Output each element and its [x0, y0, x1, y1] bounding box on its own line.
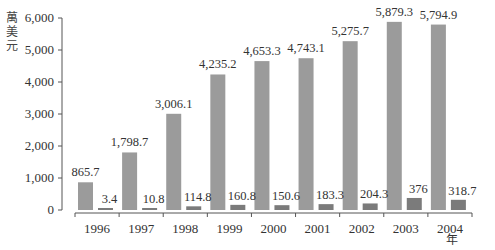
x-category-label: 2000 — [254, 221, 294, 237]
bar-chart: 萬美元 01,0002,0003,0004,0005,0006,000 1996… — [0, 0, 495, 250]
bar-value-label: 5,275.7 — [320, 24, 380, 39]
x-category-label: 1999 — [209, 221, 249, 237]
x-category-label: 2001 — [298, 221, 338, 237]
x-category-label: 2002 — [342, 221, 382, 237]
y-tick-label: 1,000 — [6, 170, 54, 186]
bar-value-label: 318.7 — [432, 184, 492, 199]
bar-series-2 — [186, 206, 201, 210]
y-axis-label-char: 美 — [6, 26, 18, 38]
bar-value-label: 1,798.7 — [100, 135, 160, 150]
y-tick-label: 3,000 — [6, 106, 54, 122]
y-tick-label: 5,000 — [6, 42, 54, 58]
y-tick-label: 2,000 — [6, 138, 54, 154]
y-tick-label: 4,000 — [6, 74, 54, 90]
bar-series-2 — [98, 208, 113, 210]
bar-series-1 — [254, 61, 269, 210]
bar-value-label: 4,235.2 — [188, 57, 248, 72]
bar-series-2 — [230, 205, 245, 210]
bar-series-2 — [407, 198, 422, 210]
bar-series-1 — [343, 41, 358, 210]
bar-value-label: 5,794.9 — [408, 8, 468, 23]
bar-series-2 — [451, 200, 466, 210]
x-category-label: 1997 — [121, 221, 161, 237]
bar-value-label: 4,743.1 — [276, 41, 336, 56]
bar-series-2 — [363, 203, 378, 210]
bar-value-label: 3,006.1 — [144, 97, 204, 112]
y-tick-label: 0 — [6, 202, 54, 218]
bar-series-2 — [142, 208, 157, 210]
bar-series-2 — [274, 205, 289, 210]
x-axis-label: 年 — [432, 230, 472, 248]
bar-value-label: 865.7 — [56, 165, 116, 180]
x-category-label: 1996 — [77, 221, 117, 237]
bar-series-2 — [319, 204, 334, 210]
y-tick-label: 6,000 — [6, 10, 54, 26]
x-category-label: 2003 — [386, 221, 426, 237]
x-category-label: 1998 — [165, 221, 205, 237]
chart-plot-area — [0, 0, 495, 250]
